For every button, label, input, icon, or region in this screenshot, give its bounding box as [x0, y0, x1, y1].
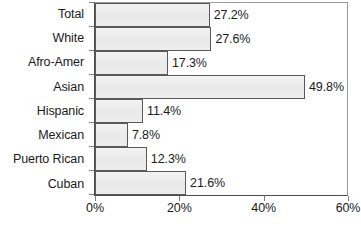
bar	[95, 99, 143, 123]
bar	[95, 147, 147, 171]
bar-value-label: 11.4%	[147, 105, 181, 118]
y-axis-tick-label: Asian	[53, 81, 84, 94]
y-axis-tick-label: Puerto Rican	[13, 153, 84, 166]
y-axis-tick-label: White	[53, 32, 84, 45]
y-axis-category-labels: Total White Afro-Amer Asian Hispanic Mex…	[0, 2, 89, 196]
x-axis-tick-label: 40%	[251, 202, 276, 215]
y-axis-label-cell: Total	[0, 2, 89, 26]
y-axis-tick-label: Cuban	[48, 178, 84, 191]
bar-value-label: 27.2%	[214, 9, 249, 22]
y-axis-label-cell: White	[0, 26, 89, 50]
x-axis-tick-labels: 0%20%40%60%	[94, 202, 349, 222]
bar	[95, 27, 211, 51]
y-axis-label-cell: Cuban	[0, 172, 89, 196]
bar	[95, 123, 128, 147]
bar-value-label: 7.8%	[132, 129, 160, 142]
y-axis-tick-label: Mexican	[38, 129, 84, 142]
bar-row: 27.2%	[95, 3, 249, 27]
bar	[95, 51, 168, 75]
y-axis-label-cell: Hispanic	[0, 99, 89, 123]
bar-value-label: 17.3%	[172, 57, 207, 70]
x-axis-tick-marks	[94, 196, 349, 201]
bars-layer: 27.2%27.6%17.3%49.8%11.4%7.8%12.3%21.6%	[95, 3, 347, 195]
bar-value-label: 12.3%	[151, 153, 186, 166]
bar-row: 27.6%	[95, 27, 250, 51]
x-axis-tick-label: 0%	[86, 202, 104, 215]
bar	[95, 75, 305, 99]
bar-value-label: 21.6%	[190, 177, 225, 190]
bar-row: 12.3%	[95, 147, 186, 171]
x-axis-tick-label: 20%	[167, 202, 192, 215]
bar-row: 21.6%	[95, 171, 225, 195]
bar	[95, 3, 210, 27]
y-axis-tick-label: Hispanic	[37, 105, 84, 118]
y-axis-label-cell: Asian	[0, 75, 89, 99]
bar-row: 49.8%	[95, 75, 344, 99]
y-axis-tick-label: Total	[58, 8, 84, 21]
bar-value-label: 27.6%	[215, 33, 250, 46]
bar-row: 17.3%	[95, 51, 207, 75]
bar-row: 11.4%	[95, 99, 181, 123]
y-axis-label-cell: Mexican	[0, 123, 89, 147]
bar-value-label: 49.8%	[309, 81, 344, 94]
bar-row: 7.8%	[95, 123, 160, 147]
y-axis-label-cell: Afro-Amer	[0, 51, 89, 75]
bar-chart: Total White Afro-Amer Asian Hispanic Mex…	[0, 0, 361, 228]
y-axis-tick-label: Afro-Amer	[28, 56, 84, 69]
y-axis-label-cell: Puerto Rican	[0, 148, 89, 172]
plot-area: 27.2%27.6%17.3%49.8%11.4%7.8%12.3%21.6%	[94, 2, 348, 196]
x-axis-tick-label: 60%	[336, 202, 361, 215]
bar	[95, 171, 186, 195]
